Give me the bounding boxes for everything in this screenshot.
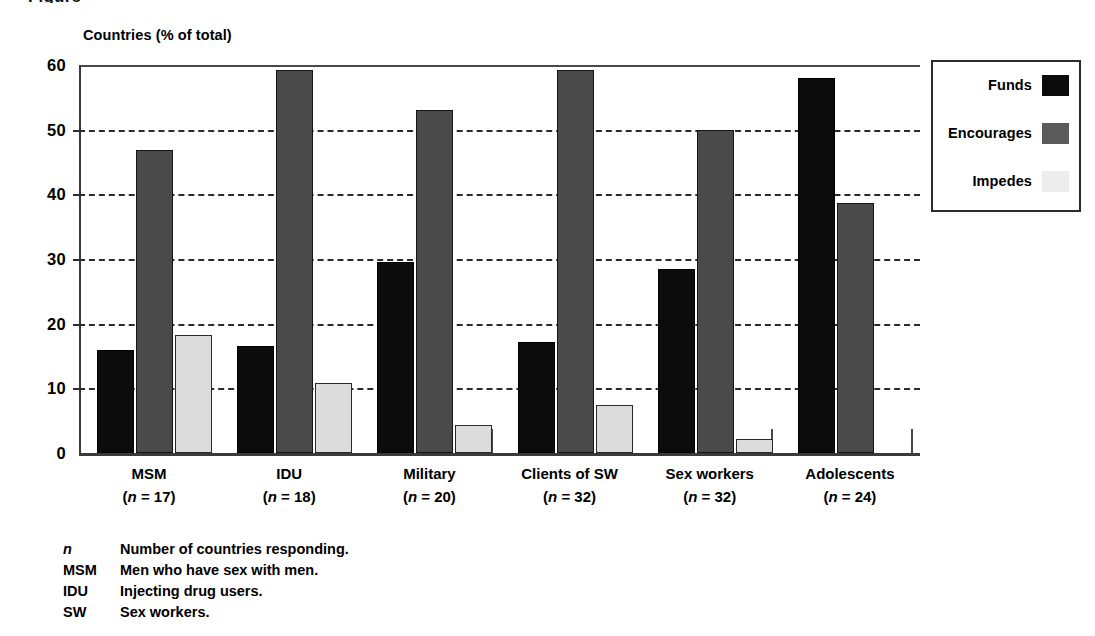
bar-encourages-sex-workers bbox=[697, 130, 734, 453]
bar-funds-idu bbox=[237, 346, 274, 453]
footnote-row: SWSex workers. bbox=[63, 602, 349, 623]
gridline bbox=[79, 324, 920, 326]
x-axis-label-sex-workers: Sex workers(n = 32) bbox=[640, 462, 780, 508]
bar-encourages-military bbox=[416, 110, 453, 453]
y-axis-tick-mark bbox=[73, 324, 80, 326]
bar-impedes-clients-of-sw bbox=[596, 405, 633, 453]
footnote-block: nNumber of countries responding.MSMMen w… bbox=[63, 539, 349, 623]
x-axis-label-adolescents: Adolescents(n = 24) bbox=[780, 462, 920, 508]
footnote-key: IDU bbox=[63, 581, 120, 602]
footnote-text: Number of countries responding. bbox=[120, 539, 349, 560]
y-axis-tick-label: 30 bbox=[47, 250, 66, 269]
bar-encourages-msm bbox=[136, 150, 173, 453]
x-axis-label-count: (n = 24) bbox=[780, 485, 920, 508]
x-axis-label-name: Military bbox=[403, 465, 456, 482]
clipped-title: Figure bbox=[28, 0, 81, 3]
bar-funds-adolescents bbox=[798, 78, 835, 453]
gridline bbox=[79, 130, 920, 132]
bar-impedes-military bbox=[455, 425, 492, 453]
y-axis-tick-label: 0 bbox=[57, 444, 66, 463]
x-axis-label-count: (n = 17) bbox=[79, 485, 219, 508]
legend-item-impedes: Impedes bbox=[972, 170, 1069, 192]
footnote-text: Injecting drug users. bbox=[120, 581, 263, 602]
footnote-key: SW bbox=[63, 602, 120, 623]
x-axis-label-idu: IDU(n = 18) bbox=[219, 462, 359, 508]
group-separator-tick bbox=[911, 429, 913, 453]
y-axis-tick-label: 60 bbox=[47, 56, 66, 75]
footnote-row: nNumber of countries responding. bbox=[63, 539, 349, 560]
x-axis-label-name: MSM bbox=[132, 465, 167, 482]
x-axis-label-name: Adolescents bbox=[805, 465, 894, 482]
y-axis-tick-labels: 0102030405060 bbox=[18, 65, 66, 453]
bar-impedes-idu bbox=[315, 383, 352, 453]
legend-swatch-encourages-icon bbox=[1042, 123, 1069, 144]
bar-impedes-sex-workers bbox=[736, 439, 773, 453]
legend-item-encourages: Encourages bbox=[948, 122, 1069, 144]
x-axis-label-military: Military(n = 20) bbox=[359, 462, 499, 508]
legend-label-encourages: Encourages bbox=[948, 125, 1032, 141]
y-axis-tick-label: 10 bbox=[47, 379, 66, 398]
x-axis-label-msm: MSM(n = 17) bbox=[79, 462, 219, 508]
x-axis-label-count: (n = 18) bbox=[219, 485, 359, 508]
footnote-text: Men who have sex with men. bbox=[120, 560, 318, 581]
bar-encourages-adolescents bbox=[837, 203, 874, 453]
gridline bbox=[79, 194, 920, 196]
y-axis-tick-label: 20 bbox=[47, 314, 66, 333]
x-axis-label-name: Sex workers bbox=[666, 465, 754, 482]
bar-encourages-idu bbox=[276, 70, 313, 453]
y-axis-tick-mark bbox=[73, 388, 80, 390]
x-axis-labels: MSM(n = 17)IDU(n = 18)Military(n = 20)Cl… bbox=[79, 462, 920, 518]
chart-page: Figure Countries (% of total) 0102030405… bbox=[0, 0, 1095, 636]
legend-swatch-impedes-icon bbox=[1042, 171, 1069, 192]
chart-legend: Funds Encourages Impedes bbox=[931, 60, 1081, 212]
x-axis-baseline bbox=[79, 453, 920, 456]
plot-area bbox=[79, 65, 920, 453]
gridline bbox=[79, 259, 920, 261]
bar-funds-msm bbox=[97, 350, 134, 453]
x-axis-label-name: Clients of SW bbox=[521, 465, 618, 482]
y-axis-tick-mark bbox=[73, 259, 80, 261]
x-axis-label-count: (n = 32) bbox=[640, 485, 780, 508]
x-axis-label-count: (n = 32) bbox=[500, 485, 640, 508]
y-axis-title: Countries (% of total) bbox=[83, 27, 232, 43]
x-axis-label-name: IDU bbox=[276, 465, 302, 482]
bar-encourages-clients-of-sw bbox=[557, 70, 594, 453]
legend-label-funds: Funds bbox=[988, 77, 1032, 93]
plot-top-rule bbox=[79, 65, 920, 67]
x-axis-label-clients-of-sw: Clients of SW(n = 32) bbox=[500, 462, 640, 508]
legend-item-funds: Funds bbox=[988, 74, 1069, 96]
footnote-row: MSMMen who have sex with men. bbox=[63, 560, 349, 581]
y-axis-tick-label: 50 bbox=[47, 120, 66, 139]
y-axis-tick-label: 40 bbox=[47, 185, 66, 204]
x-axis-label-count: (n = 20) bbox=[359, 485, 499, 508]
bar-funds-sex-workers bbox=[658, 269, 695, 453]
y-axis-tick-mark bbox=[73, 130, 80, 132]
footnote-key: n bbox=[63, 539, 120, 560]
bar-impedes-msm bbox=[175, 335, 212, 453]
footnote-text: Sex workers. bbox=[120, 602, 209, 623]
footnote-key: MSM bbox=[63, 560, 120, 581]
footnote-row: IDUInjecting drug users. bbox=[63, 581, 349, 602]
y-axis-tick-mark bbox=[73, 194, 80, 196]
bar-funds-military bbox=[377, 262, 414, 453]
legend-label-impedes: Impedes bbox=[972, 173, 1032, 189]
bar-funds-clients-of-sw bbox=[518, 342, 555, 453]
legend-swatch-funds-icon bbox=[1042, 75, 1069, 96]
